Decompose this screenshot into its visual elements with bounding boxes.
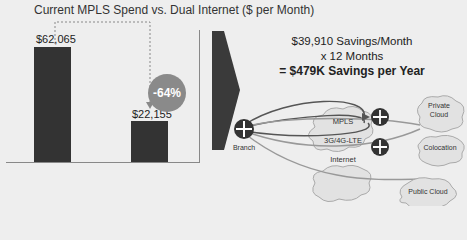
branch-router-icon <box>234 119 254 139</box>
bar-current-mpls <box>34 47 71 162</box>
bar-value-mpls: $62,065 <box>36 33 76 45</box>
transport-lte: 3G/4G-LTE <box>324 136 362 145</box>
colocation-label: Colocation <box>423 144 456 151</box>
reduction-badge: -64% <box>148 74 186 112</box>
private-cloud-router-icon <box>371 108 389 126</box>
savings-monthly: $39,910 Savings/Month <box>262 34 442 49</box>
colocation-router-icon <box>371 138 389 156</box>
svg-text:Private: Private <box>428 102 450 109</box>
savings-multiplier: x 12 Months <box>262 49 442 64</box>
branch-label: Branch <box>233 144 255 151</box>
savings-yearly: = $479K Savings per Year <box>262 64 442 79</box>
bar-dual-internet <box>131 121 168 162</box>
savings-summary: $39,910 Savings/Month x 12 Months = $479… <box>262 34 442 79</box>
transport-internet: Internet <box>330 155 356 164</box>
transport-mpls: MPLS <box>333 117 353 126</box>
network-diagram: Branch MPLS 3G/4G-LTE Internet Private C… <box>230 95 467 206</box>
public-cloud-label: Public Cloud <box>408 188 447 195</box>
chart-baseline <box>6 162 200 163</box>
svg-text:Cloud: Cloud <box>430 111 448 118</box>
